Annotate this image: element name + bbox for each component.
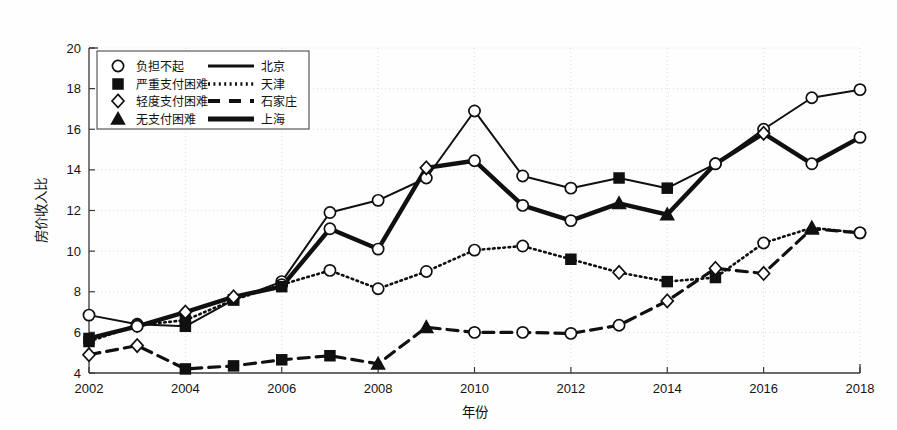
- marker-上海-2010: [469, 155, 480, 166]
- x-tick-label: 2008: [364, 381, 393, 396]
- legend-series-label: 北京: [261, 60, 285, 74]
- marker-石家庄-2011: [517, 327, 528, 338]
- marker-北京-2002: [83, 310, 94, 321]
- marker-北京-2012: [565, 183, 576, 194]
- marker-天津-2010: [469, 245, 480, 256]
- marker-石家庄-2005: [229, 361, 239, 371]
- marker-天津-2009: [421, 266, 432, 277]
- x-tick-label: 2016: [749, 381, 778, 396]
- chart-figure: 4681012141618202002200420062008201020122…: [0, 0, 897, 430]
- y-tick-label: 18: [67, 81, 81, 96]
- marker-石家庄-2018: [854, 227, 865, 238]
- y-tick-label: 20: [67, 41, 81, 56]
- marker-石家庄-2007: [325, 351, 335, 361]
- y-tick-label: 4: [74, 366, 81, 381]
- marker-天津-2012: [566, 254, 576, 264]
- marker-北京-2008: [373, 195, 384, 206]
- marker-上海-2015: [710, 158, 721, 169]
- legend-marker-label: 轻度支付困难: [136, 94, 208, 109]
- y-tick-label: 6: [74, 325, 81, 340]
- marker-石家庄-2006: [277, 355, 287, 365]
- marker-天津-2008: [373, 283, 384, 294]
- marker-上海-2011: [517, 200, 528, 211]
- y-tick-label: 14: [67, 162, 81, 177]
- marker-北京-2013: [614, 173, 624, 183]
- marker-上海-2012: [565, 215, 576, 226]
- marker-上海-2006: [277, 282, 287, 292]
- y-axis-title: 房价收入比: [33, 178, 49, 243]
- marker-北京-2007: [324, 207, 335, 218]
- y-tick-label: 16: [67, 122, 81, 137]
- y-tick-label: 8: [74, 284, 81, 299]
- marker-北京-2017: [806, 92, 817, 103]
- legend-marker-label: 负担不起: [136, 60, 184, 74]
- marker-石家庄-2010: [469, 327, 480, 338]
- marker-北京-2010: [469, 105, 480, 116]
- x-tick-label: 2018: [846, 381, 875, 396]
- legend-series-label: 石家庄: [261, 94, 297, 109]
- marker-上海-2008: [373, 243, 384, 254]
- marker-北京-2018: [854, 84, 865, 95]
- legend-series-label: 天津: [261, 78, 285, 92]
- legend-marker-label: 无支付困难: [136, 113, 196, 127]
- marker-石家庄-2012: [565, 328, 576, 339]
- marker-天津-2014: [662, 277, 672, 287]
- marker-上海-2017: [806, 158, 817, 169]
- marker-天津-2016: [758, 237, 769, 248]
- house-price-income-ratio-line-chart: 4681012141618202002200420062008201020122…: [0, 0, 897, 430]
- marker-石家庄-2004: [180, 364, 190, 374]
- marker-上海-2003: [132, 321, 143, 332]
- x-tick-label: 2014: [653, 381, 682, 396]
- legend-marker-label: 严重支付困难: [136, 78, 208, 92]
- legend: 负担不起严重支付困难轻度支付困难无支付困难北京天津石家庄上海: [97, 51, 309, 129]
- marker-上海-2018: [854, 132, 865, 143]
- legend-series-label: 上海: [261, 112, 285, 127]
- marker-上海-2007: [324, 223, 335, 234]
- marker-天津-2011: [517, 240, 528, 251]
- y-tick-label: 12: [67, 203, 81, 218]
- legend-marker-square-filled: [113, 79, 123, 89]
- marker-石家庄-2013: [613, 320, 624, 331]
- x-tick-label: 2004: [171, 381, 200, 396]
- x-axis-title: 年份: [462, 404, 489, 420]
- y-tick-label: 10: [67, 244, 81, 259]
- x-tick-label: 2012: [556, 381, 585, 396]
- marker-北京-2011: [517, 170, 528, 181]
- marker-上海-2002: [84, 334, 94, 344]
- marker-天津-2007: [324, 265, 335, 276]
- legend-marker-circle-open: [112, 60, 123, 71]
- marker-北京-2014: [662, 183, 672, 193]
- x-tick-label: 2006: [267, 381, 296, 396]
- x-tick-label: 2002: [75, 381, 104, 396]
- x-tick-label: 2010: [460, 381, 489, 396]
